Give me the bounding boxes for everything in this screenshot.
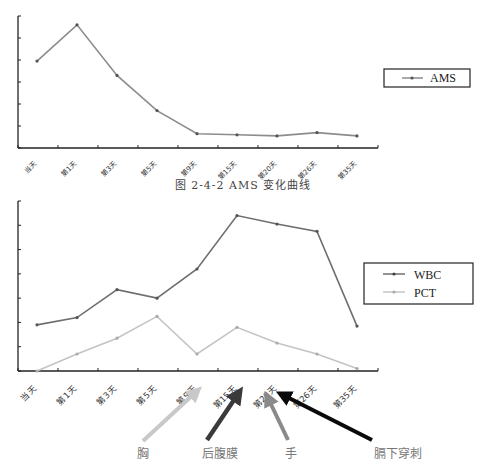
- data-point: [235, 326, 238, 329]
- x-tick-label: 当天: [19, 383, 39, 403]
- data-point: [35, 323, 38, 326]
- data-point: [235, 214, 238, 217]
- data-point: [315, 230, 318, 233]
- arrow-subphrenic-puncture: [283, 395, 372, 440]
- data-point: [75, 23, 78, 26]
- data-point: [115, 74, 118, 77]
- x-tick-label: 当天: [22, 159, 38, 175]
- data-point: [35, 369, 38, 372]
- data-point: [315, 352, 318, 355]
- series-ams: [35, 23, 358, 137]
- data-point: [355, 367, 358, 370]
- series-pct: [35, 315, 358, 373]
- x-tick-label: 第1天: [55, 383, 79, 407]
- data-point: [275, 134, 278, 137]
- data-point: [35, 60, 38, 63]
- data-point: [315, 131, 318, 134]
- x-tick-label: 第1天: [59, 159, 78, 178]
- data-point: [275, 222, 278, 225]
- data-point: [195, 132, 198, 135]
- data-point: [275, 341, 278, 344]
- x-tick-label: 第35天: [336, 159, 359, 182]
- data-point: [195, 352, 198, 355]
- ams-series: [35, 23, 358, 137]
- data-point: [355, 324, 358, 327]
- arrow-chest: [143, 392, 196, 441]
- x-tick-label: 第5天: [139, 159, 158, 178]
- wbc-pct-axes: [18, 201, 378, 371]
- x-tick-label: 第3天: [99, 159, 118, 178]
- label-hand: 手: [285, 447, 297, 461]
- data-point: [115, 337, 118, 340]
- data-point: [115, 288, 118, 291]
- data-point: [155, 315, 158, 318]
- series-wbc: [35, 214, 358, 328]
- figure-caption: 图 2-4-2 AMS 变化曲线: [175, 178, 312, 192]
- data-point: [155, 109, 158, 112]
- ams-axes: [18, 16, 378, 148]
- x-tick-label: 第9天: [179, 159, 198, 178]
- ams-legend: AMS: [384, 69, 470, 87]
- data-point: [155, 297, 158, 300]
- wbc-pct-series: [35, 214, 358, 373]
- x-tick-label: 第35天: [331, 383, 358, 410]
- data-point: [75, 316, 78, 319]
- data-point: [75, 352, 78, 355]
- label-subphrenic-puncture: 膈下穿刺: [374, 446, 422, 461]
- data-point: [355, 134, 358, 137]
- x-tick-label: 第5天: [135, 383, 159, 407]
- legend-wbc: WBC: [414, 268, 441, 282]
- legend-pct: PCT: [414, 286, 437, 300]
- wbc-pct-chart: 当天第1天第3天第5天第9天第15天第20天第26天第35天 WBC PCT: [18, 201, 473, 411]
- label-chest: 胸: [137, 446, 149, 461]
- label-retroperitoneum: 后腹膜: [202, 447, 238, 461]
- x-tick-label: 第3天: [95, 383, 119, 407]
- data-point: [235, 133, 238, 136]
- wbc-pct-legend: WBC PCT: [364, 263, 473, 304]
- data-point: [195, 267, 198, 270]
- arrow-hand: [268, 398, 288, 440]
- legend-ams: AMS: [430, 71, 456, 85]
- ams-chart: 当天第1天第3天第5天第9天第15天第20天第26天第35天 AMS 图 2-4…: [18, 16, 470, 192]
- figure-canvas: 当天第1天第3天第5天第9天第15天第20天第26天第35天 AMS 图 2-4…: [0, 0, 487, 476]
